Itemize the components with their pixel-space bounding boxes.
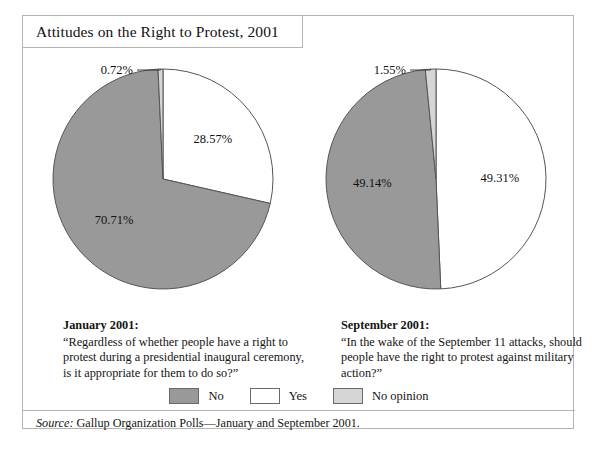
chart-legend: No Yes No opinion — [23, 388, 575, 404]
pie-chart-january: 28.57%70.71%0.72% — [33, 56, 293, 306]
caption-september: September 2001: “In the wake of the Sept… — [341, 318, 591, 381]
caption-september-body: “In the wake of the September 11 attacks… — [341, 335, 591, 382]
source-note: Source: Gallup Organization Polls—Januar… — [36, 416, 360, 431]
legend-label-yes: Yes — [289, 389, 307, 404]
pie-svg-september: 49.31%49.14%1.55% — [306, 56, 566, 306]
legend-swatch-no — [169, 388, 199, 404]
legend-swatch-no-opinion — [333, 388, 363, 404]
source-label: Source: — [36, 416, 73, 430]
legend-item-yes: Yes — [250, 388, 307, 404]
pie-svg-january: 28.57%70.71%0.72% — [33, 56, 293, 306]
pie-chart-september: 49.31%49.14%1.55% — [306, 56, 566, 306]
legend-item-no-opinion: No opinion — [333, 388, 429, 404]
figure-frame: Attitudes on the Right to Protest, 2001 … — [22, 15, 574, 429]
legend-item-no: No — [169, 388, 223, 404]
legend-swatch-yes — [250, 388, 280, 404]
pie-value-label-no: 70.71% — [95, 213, 134, 227]
page-title: Attitudes on the Right to Protest, 2001 — [23, 23, 279, 41]
pie-value-label-yes: 28.57% — [194, 132, 233, 146]
caption-september-heading: September 2001: — [341, 318, 591, 334]
legend-label-no-opinion: No opinion — [372, 389, 429, 404]
source-text: Gallup Organization Polls—January and Se… — [73, 416, 359, 430]
pie-value-label-no: 49.14% — [353, 176, 392, 190]
pie-value-label-yes: 49.31% — [481, 171, 520, 185]
legend-label-no: No — [208, 389, 223, 404]
caption-january-body: “Regardless of whether people have a rig… — [63, 335, 313, 382]
caption-january-heading: January 2001: — [63, 318, 313, 334]
chart-title-box: Attitudes on the Right to Protest, 2001 — [23, 16, 303, 48]
pie-value-label-no-opinion: 0.72% — [101, 63, 133, 77]
source-divider — [23, 410, 575, 411]
caption-january: January 2001: “Regardless of whether peo… — [63, 318, 313, 381]
pie-value-label-no-opinion: 1.55% — [374, 63, 406, 77]
